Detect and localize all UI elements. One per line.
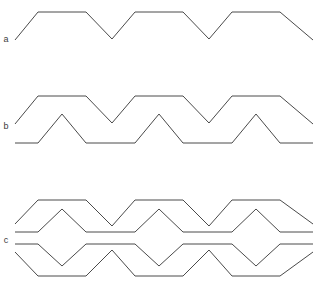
figure-canvas: abc xyxy=(0,0,318,296)
panel-label-a: a xyxy=(3,34,8,44)
figure-background xyxy=(0,0,318,296)
waveform-diagram: abc xyxy=(0,0,318,296)
panel-label-c: c xyxy=(4,235,9,245)
panel-label-b: b xyxy=(3,121,8,131)
